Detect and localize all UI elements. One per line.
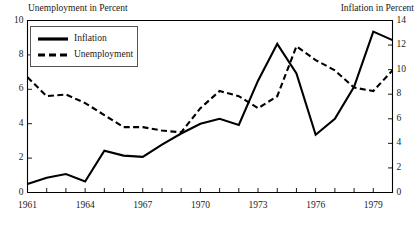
- x-tick-label: 1964: [65, 201, 105, 211]
- phillips-curve-chart: Unemployment in Percent Inflation in Per…: [0, 0, 420, 228]
- right-tick-label: 14: [397, 16, 407, 26]
- x-tick-label: 1979: [353, 201, 393, 211]
- x-tick-label: 1976: [296, 201, 336, 211]
- left-tick-label: 10: [14, 16, 24, 26]
- right-tick-label: 8: [397, 89, 402, 99]
- legend-label-unemployment: Unemployment: [74, 50, 133, 60]
- left-tick-label: 2: [19, 153, 24, 163]
- legend-item-unemployment: Unemployment: [38, 48, 133, 62]
- left-tick-label: 8: [19, 50, 24, 60]
- x-tick-label: 1973: [238, 201, 278, 211]
- left-tick-label: 6: [19, 84, 24, 94]
- legend-swatch-dashed-icon: [38, 50, 68, 60]
- left-tick-label: 4: [19, 119, 24, 129]
- right-tick-label: 0: [397, 188, 402, 198]
- legend-label-inflation: Inflation: [74, 34, 107, 44]
- right-tick-label: 4: [397, 138, 402, 148]
- chart-legend: Inflation Unemployment: [30, 26, 138, 67]
- right-tick-label: 6: [397, 114, 402, 124]
- x-tick-label: 1970: [180, 201, 220, 211]
- legend-swatch-solid-icon: [38, 34, 68, 44]
- legend-item-inflation: Inflation: [38, 32, 107, 46]
- left-tick-label: 0: [19, 188, 24, 198]
- right-tick-label: 2: [397, 163, 402, 173]
- right-tick-label: 10: [397, 65, 407, 75]
- right-tick-label: 12: [397, 40, 407, 50]
- x-tick-label: 1967: [123, 201, 163, 211]
- x-tick-label: 1961: [8, 201, 48, 211]
